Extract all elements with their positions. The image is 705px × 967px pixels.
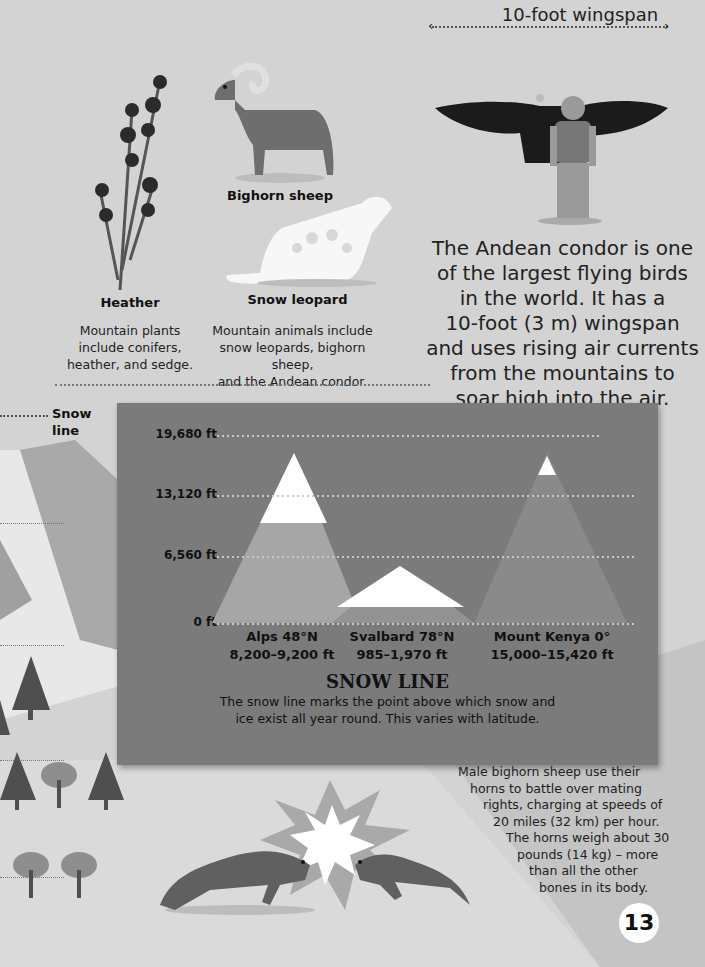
condor-and-person-illustration — [430, 88, 670, 228]
page-number: 13 — [619, 903, 659, 943]
mountain-label-alps: Alps 48°N 8,200–9,200 ft — [212, 628, 352, 664]
condor-description: The Andean condor is one of the largest … — [420, 236, 705, 411]
mountain-label-kenya: Mount Kenya 0° 15,000–15,420 ft — [482, 628, 622, 664]
arrow-right-icon: › — [664, 18, 669, 33]
mountains-diagram — [117, 403, 658, 643]
snow-line-chart: 19,680 ft 13,120 ft 6,560 ft 0 ft Alps 4… — [117, 403, 658, 765]
bighorn-sheep-illustration — [205, 60, 345, 185]
sheep-description: Male bighorn sheep use their horns to ba… — [458, 764, 669, 896]
wingspan-arrow — [432, 26, 668, 28]
plants-caption: Mountain plants include conifers, heathe… — [65, 322, 195, 373]
heather-label: Heather — [90, 295, 170, 310]
mountain-label-svalbard: Svalbard 78°N 985–1,970 ft — [342, 628, 462, 664]
arrow-left-icon: ‹ — [428, 18, 433, 33]
divider — [55, 384, 430, 386]
heather-illustration — [90, 70, 190, 295]
snow-leopard-label: Snow leopard — [240, 292, 355, 307]
chart-title: SNOW LINE — [117, 671, 658, 692]
fighting-bighorn-sheep-illustration — [150, 770, 480, 920]
zone-divider — [0, 523, 64, 524]
snow-line-label: Snow line — [52, 405, 92, 439]
wingspan-label: 10-foot wingspan — [470, 4, 690, 25]
snow-line-marker — [0, 415, 48, 417]
animals-caption: Mountain animals include snow leopards, … — [200, 322, 385, 390]
chart-description: The snow line marks the point above whic… — [117, 693, 658, 727]
snow-leopard-illustration — [222, 193, 397, 288]
zone-divider — [0, 645, 64, 646]
